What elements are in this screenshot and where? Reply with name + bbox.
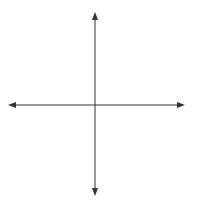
y-axis-bottom-arrow-icon xyxy=(92,188,98,196)
y-axis-top-arrow-icon xyxy=(92,12,98,20)
axes xyxy=(8,12,185,196)
x-axis-left-arrow-icon xyxy=(8,102,16,108)
coordinate-plane xyxy=(0,0,198,205)
x-axis-right-arrow-icon xyxy=(177,102,185,108)
